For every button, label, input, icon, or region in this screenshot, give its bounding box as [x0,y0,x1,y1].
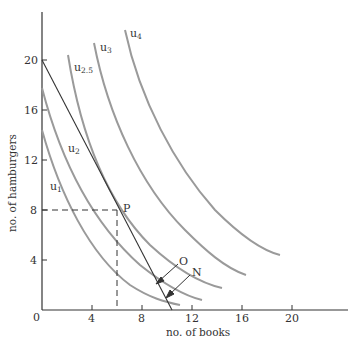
curve-u25 [68,55,222,288]
origin-label: 0 [33,311,40,324]
y-axis-title: no. of hamburgers [6,134,18,232]
curve-label-u3: u3 [100,41,112,55]
x-axis-title: no. of books [166,326,230,338]
y-tick-label-20: 20 [24,54,38,67]
point-p-label: P [123,202,131,215]
indifference-curve-chart: 0 4 8 12 16 20 4 8 12 16 20 no. of books… [0,0,356,341]
curve-label-u2: u2 [68,142,80,156]
y-tick-label-8: 8 [30,204,37,217]
x-tick-label-16: 16 [235,312,249,325]
x-ticks [92,305,292,310]
point-n-label: N [192,266,202,279]
x-tick-label-12: 12 [185,312,199,325]
arrow-o [156,264,178,284]
y-tick-label-12: 12 [24,154,38,167]
curve-label-u25: u2.5 [74,61,93,75]
x-tick-label-20: 20 [285,312,299,325]
curve-u4 [125,30,280,255]
y-tick-label-4: 4 [30,254,37,267]
point-o-label: O [179,255,188,268]
x-tick-label-8: 8 [138,312,145,325]
y-tick-label-16: 16 [24,104,38,117]
x-tick-label-4: 4 [88,312,95,325]
curve-label-u4: u4 [130,27,142,41]
